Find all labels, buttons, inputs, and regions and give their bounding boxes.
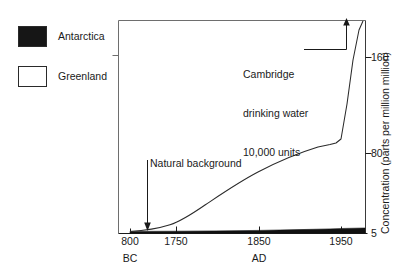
x-tick-label-1750: 1750 bbox=[164, 236, 187, 247]
lead-concentration-chart: Antarctica Greenland bbox=[0, 0, 410, 272]
x-tick-label-1850: 1850 bbox=[247, 236, 270, 247]
natural-background-arrow bbox=[144, 160, 151, 231]
x-era-label-bc: BC bbox=[123, 253, 138, 264]
annotation-cambridge-line1: Cambridge bbox=[243, 68, 308, 81]
annotation-cambridge-line3: 10,000 units bbox=[243, 146, 308, 159]
series-antarctica bbox=[130, 228, 365, 233]
annotation-natural-background: Natural background bbox=[150, 157, 242, 170]
cambridge-leader-line bbox=[304, 18, 350, 50]
y-tick-label-5: 5 bbox=[371, 228, 377, 239]
annotation-cambridge-line2: drinking water bbox=[243, 107, 308, 120]
x-tick-label-1950: 1950 bbox=[329, 236, 352, 247]
y-axis-ticks bbox=[113, 56, 372, 154]
y-axis-title: Concentration (parts per million million… bbox=[378, 18, 392, 234]
x-tick-label-800: 800 bbox=[121, 236, 139, 247]
x-era-label-ad: AD bbox=[252, 253, 267, 264]
annotation-cambridge: Cambridge drinking water 10,000 units bbox=[243, 42, 308, 185]
plot-area bbox=[0, 0, 410, 272]
